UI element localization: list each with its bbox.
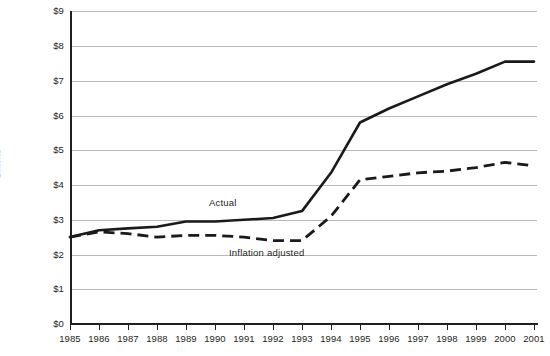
chart-container: $0$1$2$3$4$5$6$7$8$9 Billions 1985198619… [0,0,550,356]
data-lines [0,0,550,356]
series-annotation-actual: Actual [209,197,237,208]
series-line-actual [70,62,534,238]
series-annotation-inflation-adjusted: Inflation adjusted [229,247,304,258]
plot-area: $0$1$2$3$4$5$6$7$8$9 Billions 1985198619… [0,0,550,356]
